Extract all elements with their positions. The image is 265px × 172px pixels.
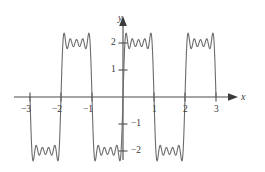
y-axis-label: y	[118, 13, 122, 23]
y-tick-label: −2	[131, 146, 141, 156]
y-tick-label: 1	[111, 65, 116, 75]
x-axis-arrowhead	[228, 93, 238, 101]
x-axis-label: x	[241, 92, 245, 102]
x-tick-label: −3	[21, 105, 31, 115]
y-tick-label: −1	[131, 119, 141, 129]
x-tick-label: 3	[214, 105, 219, 115]
x-tick-label: −1	[83, 105, 93, 115]
y-tick-label: 2	[111, 38, 116, 48]
x-tick-label: 1	[152, 105, 157, 115]
x-axis	[14, 93, 238, 101]
x-tick-label: −2	[52, 105, 62, 115]
x-tick-label: 2	[183, 105, 188, 115]
figure-container: y x −3−2−112321−1−2	[0, 0, 265, 172]
